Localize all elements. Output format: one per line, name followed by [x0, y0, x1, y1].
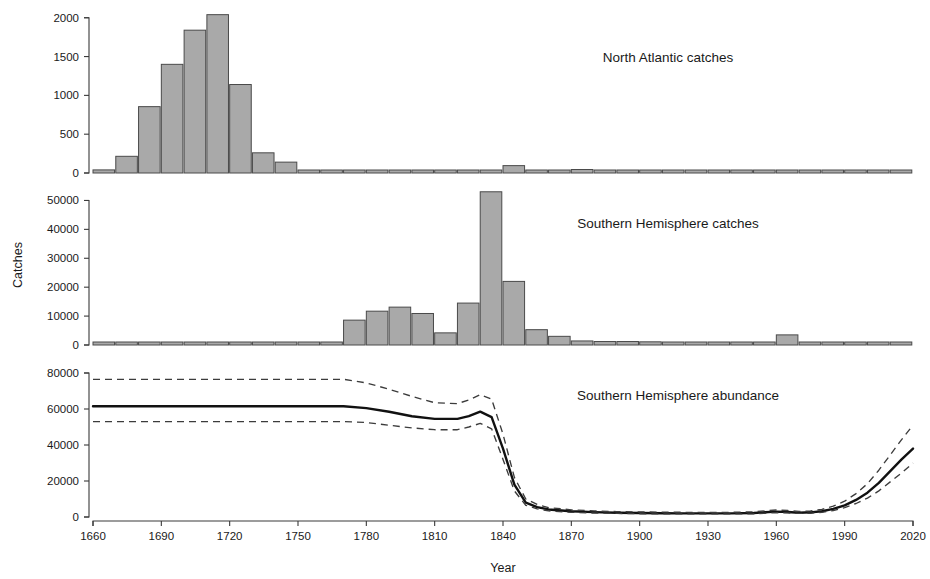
bar-0-1760	[321, 170, 343, 173]
y-tick-label-0-2000: 2000	[53, 12, 79, 24]
bar-0-1720	[230, 85, 252, 173]
bar-0-1910	[662, 170, 684, 173]
x-tick-label-1810: 1810	[422, 530, 448, 542]
bar-0-1790	[389, 170, 411, 173]
bar-1-1880	[594, 342, 616, 345]
y-tick-label-0-1500: 1500	[53, 51, 79, 63]
bar-1-2010	[890, 342, 912, 345]
bar-1-1720	[230, 342, 252, 345]
bar-1-1780	[366, 311, 388, 345]
bar-0-1690	[161, 64, 183, 173]
x-tick-label-1960: 1960	[764, 530, 790, 542]
bar-0-1750	[298, 170, 320, 173]
y-tick-label-1-0: 0	[73, 339, 79, 351]
y-tick-label-1-20000: 20000	[47, 281, 79, 293]
bar-1-1710	[207, 342, 229, 345]
x-tick-label-1900: 1900	[627, 530, 653, 542]
panel-1: 01000020000300004000050000Southern Hemis…	[47, 192, 912, 351]
bar-0-1920	[685, 170, 707, 173]
bar-0-1880	[594, 170, 616, 173]
bar-0-1820	[457, 170, 479, 173]
bar-0-1770	[344, 170, 366, 173]
bar-1-1810	[435, 333, 457, 345]
bar-0-1830	[480, 170, 502, 173]
bar-1-1860	[549, 336, 571, 345]
y-tick-label-0-500: 500	[60, 128, 79, 140]
bar-1-1870	[571, 341, 593, 345]
y-tick-label-0-1000: 1000	[53, 89, 79, 101]
x-tick-label-1870: 1870	[559, 530, 585, 542]
y-tick-label-1-30000: 30000	[47, 252, 79, 264]
bar-0-1900	[640, 170, 662, 173]
bar-0-1930	[708, 170, 730, 173]
bar-0-1970	[799, 170, 821, 173]
bar-1-1950	[754, 342, 776, 345]
y-tick-label-0-0: 0	[73, 167, 79, 179]
x-tick-label-1660: 1660	[80, 530, 106, 542]
y-tick-label-2-60000: 60000	[47, 403, 79, 415]
bar-0-1850	[526, 170, 548, 173]
x-axis-label: Year	[490, 561, 515, 575]
bar-1-1790	[389, 307, 411, 345]
bar-1-1670	[116, 342, 138, 345]
abundance-ci-line-2	[93, 422, 913, 514]
bar-1-1840	[503, 281, 525, 345]
bar-0-1670	[116, 156, 138, 173]
bar-1-1660	[93, 342, 115, 345]
bar-1-1920	[685, 342, 707, 345]
bar-1-1740	[275, 342, 297, 345]
bar-0-1940	[731, 170, 753, 173]
bar-1-1770	[344, 320, 366, 345]
x-axis: 1660169017201750178018101840187019001930…	[80, 521, 926, 542]
panel-0: 0500100015002000North Atlantic catches	[53, 12, 911, 179]
bar-0-1740	[275, 162, 297, 173]
x-tick-label-1690: 1690	[149, 530, 175, 542]
y-tick-label-1-10000: 10000	[47, 310, 79, 322]
y-tick-label-2-40000: 40000	[47, 439, 79, 451]
panel-2: 020000400006000080000Southern Hemisphere…	[47, 367, 913, 523]
bar-0-1960	[776, 170, 798, 173]
x-tick-label-1930: 1930	[695, 530, 721, 542]
x-tick-label-1840: 1840	[490, 530, 516, 542]
bar-1-1940	[731, 342, 753, 345]
bar-1-1980	[822, 342, 844, 345]
bar-1-1890	[617, 342, 639, 345]
bar-0-1710	[207, 15, 229, 173]
bar-1-1680	[139, 342, 161, 345]
x-tick-label-1990: 1990	[832, 530, 858, 542]
bar-1-1990	[845, 342, 867, 345]
panel-label-2: Southern Hemisphere abundance	[577, 388, 779, 403]
x-tick-label-2020: 2020	[900, 530, 926, 542]
bar-1-1900	[640, 342, 662, 345]
whaling-figure: 0500100015002000North Atlantic catches01…	[0, 0, 930, 579]
panel-label-0: North Atlantic catches	[603, 50, 734, 65]
x-tick-label-1780: 1780	[354, 530, 380, 542]
x-tick-label-1750: 1750	[285, 530, 311, 542]
bar-0-1730	[252, 153, 274, 173]
figure-container: 0500100015002000North Atlantic catches01…	[0, 0, 930, 579]
y-tick-label-2-20000: 20000	[47, 475, 79, 487]
bar-0-1660	[93, 170, 115, 173]
bar-0-1980	[822, 170, 844, 173]
bar-1-1930	[708, 342, 730, 345]
bar-1-1690	[161, 342, 183, 345]
bar-1-1800	[412, 313, 434, 345]
bar-1-1760	[321, 342, 343, 345]
bar-1-1850	[526, 330, 548, 345]
panel-label-1: Southern Hemisphere catches	[577, 216, 759, 231]
bar-1-1700	[184, 342, 206, 345]
bar-1-1730	[252, 342, 274, 345]
bar-0-2000	[867, 170, 889, 173]
y-axis-spine-1	[84, 200, 89, 345]
bar-0-1860	[549, 170, 571, 173]
bar-1-1750	[298, 342, 320, 345]
y-tick-label-2-80000: 80000	[47, 367, 79, 379]
bar-0-2010	[890, 170, 912, 173]
bar-0-1950	[754, 170, 776, 173]
bar-1-1960	[776, 335, 798, 345]
bar-0-1890	[617, 170, 639, 173]
bar-1-1830	[480, 192, 502, 345]
x-tick-label-1720: 1720	[217, 530, 243, 542]
y-axis-label: Catches	[11, 242, 25, 288]
bar-0-1800	[412, 170, 434, 173]
